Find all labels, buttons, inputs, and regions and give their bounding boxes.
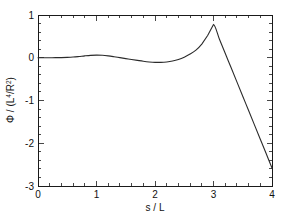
x-tick-label: 2 [152, 189, 158, 200]
x-tick-label: 1 [94, 189, 100, 200]
y-tick-label: -2 [25, 138, 34, 149]
figure-container: 01234 10-1-2-3 s / L Φ / (L4/R2) [0, 0, 291, 217]
y-axis-title-divider: / (L [5, 97, 16, 115]
x-tick-label: 4 [269, 189, 275, 200]
y-tick-label: 1 [28, 10, 34, 21]
y-tick-label: -3 [25, 181, 34, 192]
x-tick-label: 0 [35, 189, 41, 200]
x-tick-label: 3 [211, 189, 217, 200]
y-tick-label: 0 [28, 52, 34, 63]
line-chart: 01234 10-1-2-3 s / L Φ / (L4/R2) [0, 0, 291, 217]
y-axis-title-mid: /R [5, 84, 16, 94]
x-axis-title: s / L [146, 202, 165, 213]
y-axis-title-symbol: Φ [5, 115, 16, 123]
y-tick-label: -1 [25, 95, 34, 106]
y-axis-title-close: ) [5, 77, 16, 80]
